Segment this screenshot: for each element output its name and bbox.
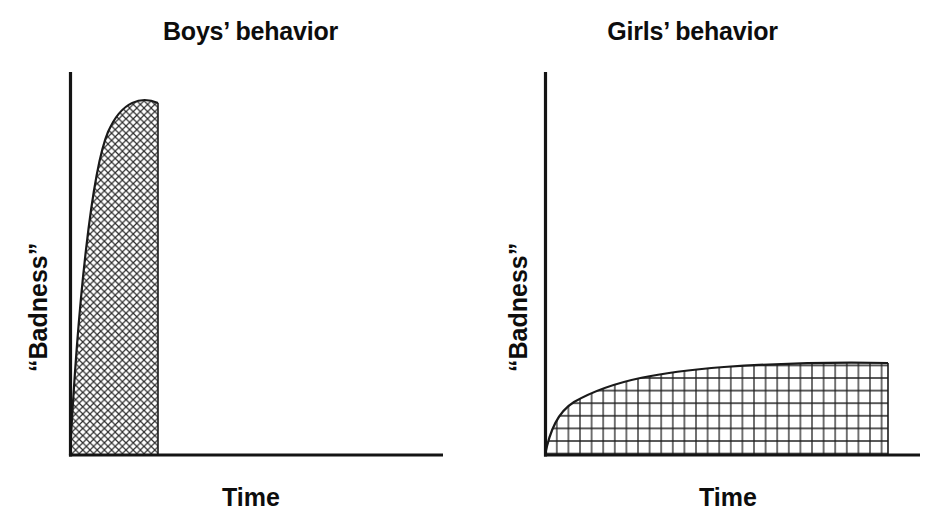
area-fill-boys	[66, 90, 166, 460]
figure-canvas: Boys’ behavior “Badness” Time	[0, 0, 929, 528]
plot-area-boys	[0, 0, 465, 528]
area-fill-girls	[542, 358, 894, 458]
plot-area-girls	[464, 0, 929, 528]
chart-panel-girls: Girls’ behavior “Badness” Time	[464, 0, 929, 528]
chart-panel-boys: Boys’ behavior “Badness” Time	[0, 0, 465, 528]
